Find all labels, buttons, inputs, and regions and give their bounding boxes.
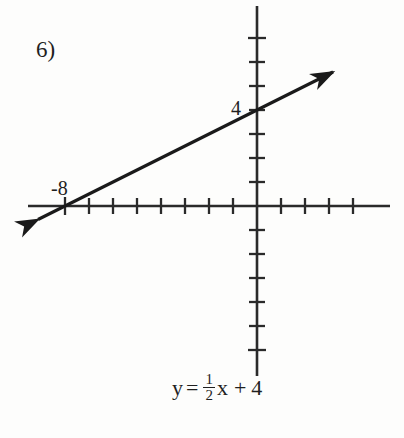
y-intercept-label: 4 xyxy=(231,98,241,118)
equation-constant: 4 xyxy=(251,377,262,399)
plotted-line xyxy=(38,72,333,220)
worksheet-page: 6) -8 4 y = 1 2 x + 4 xyxy=(0,0,404,438)
equation-operator: + xyxy=(234,377,246,399)
equation-variable: x xyxy=(217,377,228,399)
problem-number-label: 6) xyxy=(36,38,55,61)
x-intercept-label: -8 xyxy=(51,178,68,198)
equation-label: y = 1 2 x + 4 xyxy=(172,372,262,404)
slope-fraction: 1 2 xyxy=(203,372,215,404)
equation-equals-sign: = xyxy=(186,377,198,399)
x-axis xyxy=(28,197,390,215)
slope-numerator: 1 xyxy=(203,372,215,387)
slope-denominator: 2 xyxy=(203,387,215,403)
equation-lhs: y xyxy=(172,377,183,399)
y-axis xyxy=(248,6,266,376)
